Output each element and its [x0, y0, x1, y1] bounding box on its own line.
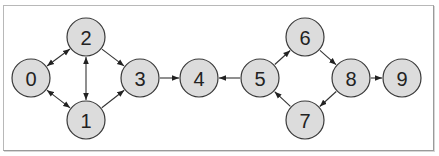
- node-label: 4: [193, 68, 204, 90]
- node-1: 1: [67, 101, 105, 139]
- node-2: 2: [67, 18, 105, 56]
- node-5: 5: [241, 59, 279, 97]
- edge-0-2-bidirectional-arrow: [47, 49, 70, 66]
- node-label: 5: [254, 68, 265, 90]
- node-label: 2: [80, 27, 91, 49]
- edge-6-8-arrow: [320, 50, 336, 64]
- node-9: 9: [383, 59, 421, 97]
- graph-canvas: 0123456789: [0, 0, 439, 156]
- node-label: 0: [25, 68, 36, 90]
- node-4: 4: [180, 59, 218, 97]
- node-label: 6: [299, 27, 310, 49]
- edge-8-7-arrow: [320, 91, 336, 106]
- node-label: 1: [80, 110, 91, 132]
- nodes-layer: 0123456789: [12, 18, 421, 139]
- edge-0-1-bidirectional-arrow: [47, 90, 70, 108]
- node-label: 8: [345, 68, 356, 90]
- edge-7-5-arrow: [275, 92, 291, 107]
- node-label: 9: [396, 68, 407, 90]
- edge-2-3-arrow: [102, 49, 124, 66]
- node-3: 3: [121, 59, 159, 97]
- node-label: 3: [134, 68, 145, 90]
- node-label: 7: [299, 110, 310, 132]
- node-7: 7: [286, 101, 324, 139]
- node-0: 0: [12, 59, 50, 97]
- edge-5-6-arrow: [275, 50, 290, 64]
- edge-1-3-arrow: [102, 90, 124, 107]
- node-6: 6: [286, 18, 324, 56]
- node-8: 8: [332, 59, 370, 97]
